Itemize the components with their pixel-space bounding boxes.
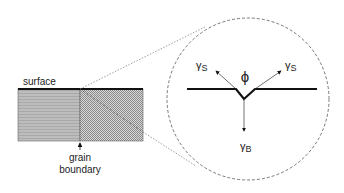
angle-phi-label: ϕ bbox=[241, 68, 249, 85]
gamma-s-left-arrow bbox=[216, 71, 236, 89]
grain-boundary-groove-diagram: surface grain boundary γS γS ϕ γB bbox=[0, 0, 344, 193]
gamma-s-right-label: γS bbox=[285, 59, 297, 73]
gamma-b-label: γB bbox=[240, 140, 252, 154]
specimen-block bbox=[18, 89, 143, 141]
grooved-surface bbox=[187, 89, 317, 99]
zoom-line-bottom bbox=[143, 132, 196, 166]
right-grain bbox=[80, 89, 143, 141]
zoom-line-top bbox=[80, 27, 205, 89]
gamma-s-right-arrow bbox=[255, 71, 281, 89]
grain-boundary-label-line2: boundary bbox=[59, 164, 101, 175]
gamma-s-left-label: γS bbox=[196, 59, 208, 73]
left-grain bbox=[18, 89, 80, 141]
magnified-view-circle bbox=[167, 18, 329, 180]
grain-boundary-label-line1: grain bbox=[69, 152, 91, 163]
surface-label: surface bbox=[23, 76, 56, 87]
